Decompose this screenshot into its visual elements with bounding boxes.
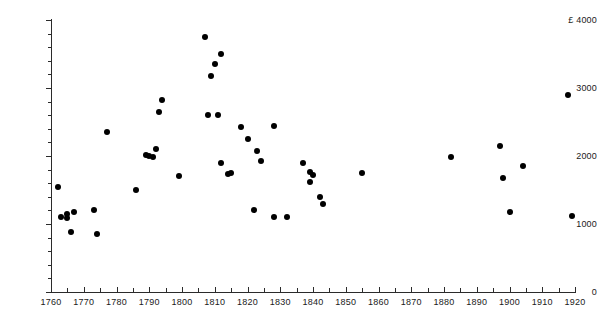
data-point <box>91 207 97 213</box>
scatter-chart-figure: 0100020003000£ 4000 17601770178017901800… <box>0 0 597 324</box>
x-tick-major <box>411 287 412 293</box>
data-point <box>271 123 277 129</box>
x-tick-minor <box>231 288 232 292</box>
data-point <box>104 129 110 135</box>
data-point <box>202 34 208 40</box>
data-point <box>208 73 214 79</box>
y-tick-label: 3000 <box>553 84 597 93</box>
x-tick-minor <box>460 288 461 292</box>
data-point <box>218 160 224 166</box>
data-point <box>284 214 290 220</box>
y-tick-minor <box>48 102 52 103</box>
data-point <box>176 173 182 179</box>
y-tick-major <box>46 224 52 225</box>
data-point <box>520 163 526 169</box>
x-tick-major <box>215 287 216 293</box>
y-tick-minor <box>48 210 52 211</box>
data-point <box>569 213 575 219</box>
x-tick-major <box>510 287 511 293</box>
data-point <box>238 124 244 130</box>
x-tick-major <box>542 287 543 293</box>
data-point <box>258 158 264 164</box>
y-tick-major <box>46 156 52 157</box>
y-tick-minor <box>48 183 52 184</box>
x-tick-major <box>84 287 85 293</box>
data-point <box>156 109 162 115</box>
data-point <box>218 51 224 57</box>
x-tick-major <box>248 287 249 293</box>
data-point <box>150 154 156 160</box>
x-tick-minor <box>362 288 363 292</box>
x-tick-major <box>149 287 150 293</box>
data-point <box>153 146 159 152</box>
data-point <box>58 214 64 220</box>
y-tick-label: 0 <box>553 288 597 297</box>
data-point <box>133 187 139 193</box>
y-tick-minor <box>48 61 52 62</box>
data-point <box>245 136 251 142</box>
data-point <box>71 209 77 215</box>
x-tick-major <box>51 287 52 293</box>
data-point <box>205 112 211 118</box>
data-point <box>507 209 513 215</box>
data-point <box>359 170 365 176</box>
data-point <box>500 175 506 181</box>
y-tick-label: £ 4000 <box>553 16 597 25</box>
data-point <box>251 207 257 213</box>
data-point <box>307 179 313 185</box>
y-tick-label: 1000 <box>553 220 597 229</box>
data-point <box>320 201 326 207</box>
plot-area: 0100020003000£ 4000 17601770178017901800… <box>0 0 597 324</box>
x-tick-minor <box>133 288 134 292</box>
y-tick-minor <box>48 74 52 75</box>
y-tick-minor <box>48 34 52 35</box>
y-tick-label: 2000 <box>553 152 597 161</box>
x-tick-minor <box>166 288 167 292</box>
x-tick-major <box>346 287 347 293</box>
x-tick-minor <box>264 288 265 292</box>
x-tick-minor <box>526 288 527 292</box>
x-tick-minor <box>329 288 330 292</box>
data-point <box>317 194 323 200</box>
data-point <box>64 215 70 221</box>
data-point <box>212 61 218 67</box>
y-tick-minor <box>48 197 52 198</box>
data-point <box>94 231 100 237</box>
y-tick-minor <box>48 238 52 239</box>
x-tick-minor <box>395 288 396 292</box>
y-tick-minor <box>48 265 52 266</box>
data-point <box>215 112 221 118</box>
x-tick-minor <box>493 288 494 292</box>
x-tick-major <box>280 287 281 293</box>
y-tick-minor <box>48 115 52 116</box>
x-tick-major <box>477 287 478 293</box>
x-tick-label: 1920 <box>555 298 595 307</box>
y-tick-minor <box>48 47 52 48</box>
x-tick-major <box>117 287 118 293</box>
data-point <box>254 148 260 154</box>
x-tick-major <box>379 287 380 293</box>
data-point <box>228 170 234 176</box>
y-tick-major <box>46 88 52 89</box>
data-point <box>448 154 454 160</box>
data-point <box>300 160 306 166</box>
x-tick-minor <box>100 288 101 292</box>
x-tick-minor <box>297 288 298 292</box>
y-tick-minor <box>48 278 52 279</box>
data-point <box>68 229 74 235</box>
x-tick-minor <box>67 288 68 292</box>
data-point <box>271 214 277 220</box>
data-point <box>497 143 503 149</box>
x-tick-minor <box>428 288 429 292</box>
y-tick-major <box>46 20 52 21</box>
x-tick-major <box>313 287 314 293</box>
data-point <box>159 97 165 103</box>
y-tick-minor <box>48 170 52 171</box>
data-point <box>565 92 571 98</box>
data-point <box>55 184 61 190</box>
x-tick-minor <box>198 288 199 292</box>
x-tick-major <box>444 287 445 293</box>
x-tick-major <box>182 287 183 293</box>
y-tick-minor <box>48 129 52 130</box>
y-tick-minor <box>48 251 52 252</box>
